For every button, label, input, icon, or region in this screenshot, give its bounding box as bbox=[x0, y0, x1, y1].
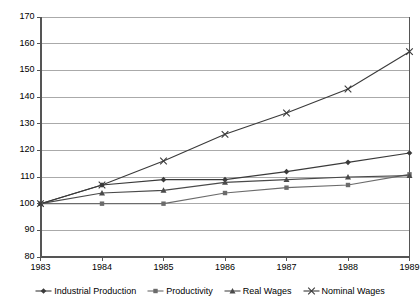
data-point-marker bbox=[222, 131, 229, 138]
data-point-marker bbox=[161, 177, 167, 183]
y-tick-label: 100 bbox=[0, 199, 35, 208]
y-tick-label: 140 bbox=[0, 92, 35, 101]
data-point-marker bbox=[345, 160, 351, 166]
y-tick-label: 150 bbox=[0, 65, 35, 74]
data-point-marker bbox=[41, 288, 47, 294]
data-point-marker bbox=[345, 86, 352, 93]
data-point-marker bbox=[346, 183, 350, 187]
legend-label: Nominal Wages bbox=[322, 286, 385, 296]
data-point-marker bbox=[154, 289, 158, 293]
axes bbox=[37, 17, 410, 261]
legend-item-diamond: Industrial Production bbox=[35, 286, 136, 296]
legend-label: Real Wages bbox=[243, 286, 292, 296]
chart-legend: Industrial ProductionProductivityReal Wa… bbox=[0, 283, 420, 299]
legend-label: Productivity bbox=[166, 286, 213, 296]
line-chart: 8090100110120130140150160170 19831984198… bbox=[0, 0, 420, 307]
y-tick-label: 130 bbox=[0, 119, 35, 128]
y-tick-label: 120 bbox=[0, 145, 35, 154]
data-point-marker bbox=[161, 201, 165, 205]
legend-swatch-icon bbox=[147, 286, 164, 296]
x-tick-label: 1988 bbox=[328, 263, 368, 272]
legend-label: Industrial Production bbox=[54, 286, 136, 296]
y-tick-label: 170 bbox=[0, 12, 35, 21]
data-point-marker bbox=[223, 191, 227, 195]
y-tick-label: 110 bbox=[0, 172, 35, 181]
data-point-marker bbox=[284, 185, 288, 189]
x-tick-label: 1987 bbox=[267, 263, 307, 272]
x-tick-label: 1989 bbox=[390, 263, 420, 272]
legend-swatch-icon bbox=[303, 286, 320, 296]
x-tick-label: 1985 bbox=[144, 263, 184, 272]
legend-swatch-icon bbox=[224, 286, 241, 296]
data-point-marker bbox=[160, 158, 167, 165]
x-tick-label: 1984 bbox=[82, 263, 122, 272]
legend-swatch-icon bbox=[35, 286, 52, 296]
legend-item-cross: Nominal Wages bbox=[303, 286, 385, 296]
data-point-marker bbox=[284, 169, 290, 175]
y-tick-label: 80 bbox=[0, 252, 35, 261]
legend-item-square: Productivity bbox=[147, 286, 213, 296]
x-tick-label: 1983 bbox=[21, 263, 61, 272]
data-point-marker bbox=[283, 110, 290, 117]
data-point-marker bbox=[407, 150, 413, 156]
legend-item-triangle: Real Wages bbox=[224, 286, 292, 296]
chart-plot-area bbox=[0, 0, 420, 307]
x-tick-label: 1986 bbox=[205, 263, 245, 272]
y-tick-label: 90 bbox=[0, 225, 35, 234]
gridlines bbox=[41, 17, 410, 257]
data-point-marker bbox=[100, 201, 104, 205]
y-tick-label: 160 bbox=[0, 39, 35, 48]
